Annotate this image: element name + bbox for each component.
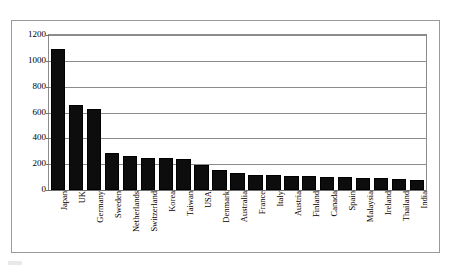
x-tick-label-text: Italy	[276, 191, 285, 253]
x-tick-label: UK	[79, 191, 88, 253]
x-tick-label: Netherlands	[133, 191, 142, 253]
y-tick-label: 1200	[12, 30, 46, 39]
bar[interactable]	[302, 176, 316, 190]
bar[interactable]	[105, 153, 119, 190]
bar[interactable]	[212, 170, 226, 190]
bar[interactable]	[356, 178, 370, 190]
bar[interactable]	[87, 109, 101, 190]
bar[interactable]	[230, 173, 244, 190]
x-tick-label: Thailand	[403, 191, 412, 253]
x-tick-label: Spain	[349, 191, 358, 253]
x-tick-label-text: Finland	[312, 191, 321, 253]
x-tick-label-text: Korea	[168, 191, 177, 253]
y-tick-label: 200	[12, 159, 46, 168]
bar[interactable]	[266, 175, 280, 190]
y-tick-label: 0	[12, 185, 46, 194]
x-tick-label-text: Austria	[294, 191, 303, 253]
x-tick-label-text: Germany	[96, 191, 105, 253]
x-tick-label: USA	[205, 191, 214, 253]
x-tick-label: Austria	[295, 191, 304, 253]
x-tick-label-text: Taiwan	[186, 191, 195, 253]
bar[interactable]	[374, 178, 388, 190]
x-tick-label-text: Denmark	[222, 191, 231, 253]
bar[interactable]	[194, 165, 208, 190]
bar[interactable]	[141, 158, 155, 190]
bar[interactable]	[248, 175, 262, 191]
x-tick-label: Finland	[313, 191, 322, 253]
bar[interactable]	[338, 177, 352, 190]
plot-area	[48, 34, 427, 191]
x-tick-label: Ireland	[385, 191, 394, 253]
x-tick-label-text: Japan	[60, 191, 69, 253]
bar[interactable]	[51, 49, 65, 190]
x-tick-label: India	[421, 191, 430, 253]
x-tick-label: France	[259, 191, 268, 253]
x-tick-label: Korea	[169, 191, 178, 253]
x-tick-label: Sweden	[115, 191, 124, 253]
x-tick-label: Italy	[277, 191, 286, 253]
x-tick-label: Denmark	[223, 191, 232, 253]
bar[interactable]	[284, 176, 298, 190]
x-tick-label: Japan	[61, 191, 70, 253]
bar[interactable]	[176, 159, 190, 190]
bar[interactable]	[410, 180, 424, 190]
bars-series	[49, 35, 426, 190]
bar[interactable]	[320, 177, 334, 190]
y-tick-label: 800	[12, 82, 46, 91]
x-tick-label-text: Sweden	[114, 191, 123, 253]
x-tick-label-text: France	[258, 191, 267, 253]
bar[interactable]	[69, 105, 83, 190]
bar[interactable]	[392, 179, 406, 190]
x-tick-label-text: Switzerland	[150, 191, 159, 253]
bar[interactable]	[159, 158, 173, 190]
x-tick-label-text: Malaysia	[366, 191, 375, 253]
x-tick-label-text: Spain	[348, 191, 357, 253]
x-tick-label: Taiwan	[187, 191, 196, 253]
bar-chart: 020040060080010001200 JapanUKGermanySwed…	[12, 21, 441, 254]
scan-artifact	[8, 261, 22, 265]
x-tick-label-text: Canada	[330, 191, 339, 253]
x-axis: JapanUKGermanySwedenNetherlandsSwitzerla…	[48, 191, 425, 253]
x-tick-label-text: Australia	[240, 191, 249, 253]
x-tick-label: Australia	[241, 191, 250, 253]
x-tick-label-text: Ireland	[384, 191, 393, 253]
x-tick-label: Malaysia	[367, 191, 376, 253]
x-tick-label-text: USA	[204, 191, 213, 253]
x-tick-label: Switzerland	[151, 191, 160, 253]
x-tick-label: Canada	[331, 191, 340, 253]
x-tick-label-text: Netherlands	[132, 191, 141, 253]
y-axis: 020040060080010001200	[12, 21, 46, 196]
bar[interactable]	[123, 156, 137, 190]
y-tick-label: 600	[12, 108, 46, 117]
x-tick-label-text: Thailand	[402, 191, 411, 253]
x-tick-label: Germany	[97, 191, 106, 253]
y-tick-label: 1000	[12, 56, 46, 65]
x-tick-label-text: India	[420, 191, 429, 253]
x-tick-label-text: UK	[78, 191, 87, 253]
y-tick-label: 400	[12, 133, 46, 142]
chart-figure-frame: 020040060080010001200 JapanUKGermanySwed…	[11, 20, 440, 253]
